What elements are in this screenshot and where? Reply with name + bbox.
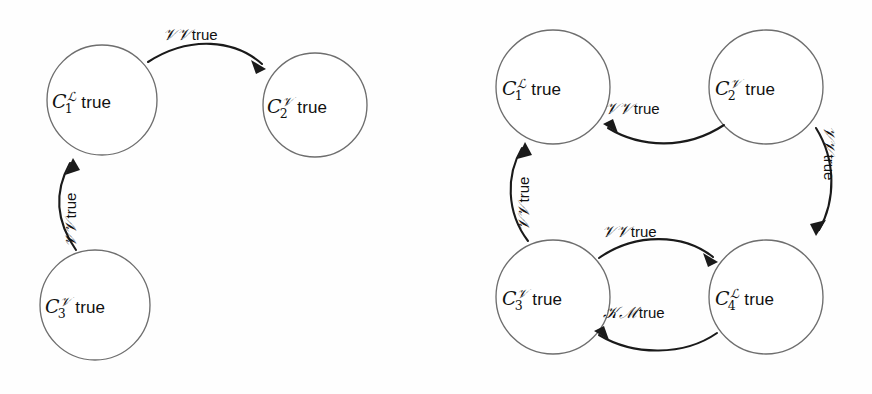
- edge-m3-to-m4-sym2: 𝒱: [616, 222, 630, 241]
- edge-c1-to-c2-label: 𝒱𝒱true: [163, 27, 218, 43]
- edge-m3-to-m1-word: true: [515, 177, 532, 203]
- edge-m2-to-m4-label: 𝒱𝒱true: [821, 115, 837, 191]
- edge-m2-to-m1-sym1: 𝒱: [605, 99, 619, 118]
- edge-m3-to-m1-label: 𝒱𝒱true: [516, 166, 532, 242]
- edge-m3-to-m1-sym1: 𝒱: [514, 218, 533, 232]
- node-c2-superscript: 𝒱: [282, 94, 292, 109]
- left-diagram-panel: C1ℒtrue C2𝒱true C3𝒱true 𝒱𝒱true 𝒱𝒱true: [0, 0, 436, 394]
- edge-m4-to-m3-label: 𝒦ℳtrue: [603, 305, 665, 321]
- edge-m3-to-m1-arrowhead: [517, 142, 532, 159]
- edge-c1-to-c2-sym1: 𝒱: [163, 25, 177, 44]
- node-m1-label: C1ℒtrue: [502, 78, 561, 102]
- edge-m4-to-m3-path: [599, 333, 717, 351]
- node-m3-superscript: 𝒱: [517, 286, 527, 301]
- node-c1-word: true: [81, 93, 111, 112]
- node-c1-label: C1ℒtrue: [52, 91, 111, 115]
- edge-m3-to-m4-sym1: 𝒱: [602, 222, 616, 241]
- edge-m2-to-m4-arrowhead: [810, 220, 826, 236]
- edge-m2-to-m1-sym2: 𝒱: [619, 99, 633, 118]
- edge-m2-to-m4-sym2: 𝒱: [820, 139, 839, 153]
- edge-c1-to-c2-path: [148, 44, 262, 64]
- node-c2-word: true: [297, 98, 327, 117]
- edge-c3-to-c1-word: true: [62, 193, 79, 219]
- edge-c1-to-c2-sym2: 𝒱: [177, 25, 191, 44]
- edge-m3-to-m1-sym2: 𝒱: [514, 204, 533, 218]
- edge-m2-to-m1-arrowhead: [603, 119, 618, 133]
- node-m2-superscript: 𝒱: [730, 76, 740, 91]
- node-m4-superscript: ℒ: [730, 286, 739, 301]
- edge-m2-to-m1-word: true: [634, 100, 660, 117]
- node-m3-word: true: [532, 290, 562, 309]
- edge-c3-to-c1-sym1: 𝒱: [61, 234, 80, 248]
- edge-m2-to-m4-word: true: [821, 154, 838, 180]
- edge-m3-to-m4-path: [599, 239, 713, 258]
- node-c1-superscript: ℒ: [67, 89, 76, 104]
- right-diagram-canvas: [436, 0, 872, 394]
- edge-c1-to-c2-word: true: [192, 26, 218, 43]
- edge-m4-to-m3-sym2: ℳ: [619, 303, 638, 322]
- edge-m4-to-m3-sym1: 𝒦: [603, 303, 619, 322]
- edge-m2-to-m4-sym1: 𝒱: [820, 126, 839, 140]
- node-m3-label: C3𝒱true: [502, 288, 562, 312]
- edge-m3-to-m4-label: 𝒱𝒱true: [602, 224, 657, 240]
- node-m2-label: C2𝒱true: [715, 78, 775, 102]
- node-m2-word: true: [745, 80, 775, 99]
- edge-m3-to-m4-word: true: [631, 223, 657, 240]
- node-m4-word: true: [744, 290, 774, 309]
- edge-m4-to-m3-word: true: [639, 304, 665, 321]
- node-m1-superscript: ℒ: [517, 76, 526, 91]
- edge-c3-to-c1-label: 𝒱𝒱true: [63, 184, 79, 256]
- edge-m2-to-m1-label: 𝒱𝒱true: [605, 101, 660, 117]
- node-m1-word: true: [531, 80, 561, 99]
- node-c3-word: true: [75, 298, 105, 317]
- node-c3-label: C3𝒱true: [45, 296, 105, 320]
- node-m4-label: C4ℒtrue: [715, 288, 774, 312]
- right-diagram-panel: C1ℒtrue C2𝒱true C3𝒱true C4ℒtrue 𝒱𝒱true 𝒱…: [436, 0, 872, 394]
- node-c3-superscript: 𝒱: [60, 294, 70, 309]
- state-transition-figure: C1ℒtrue C2𝒱true C3𝒱true 𝒱𝒱true 𝒱𝒱true: [0, 0, 872, 394]
- edge-m2-to-m1-path: [608, 125, 724, 143]
- edge-c3-to-c1-sym2: 𝒱: [61, 220, 80, 234]
- node-c2-label: C2𝒱true: [267, 96, 327, 120]
